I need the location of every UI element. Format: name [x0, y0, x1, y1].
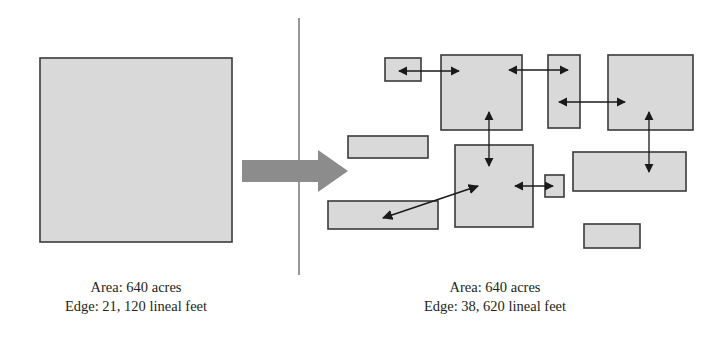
left-caption-area-line: Area: 640 acres [0, 278, 272, 297]
habitat-fragment [548, 55, 580, 128]
habitat-fragment [608, 55, 693, 130]
transformation-arrow-icon [242, 150, 348, 192]
habitat-fragments-group [328, 55, 693, 248]
intact-habitat-square [40, 58, 232, 242]
left-caption-edge-line: Edge: 21, 120 lineal feet [0, 297, 272, 316]
habitat-fragmentation-figure: Area: 640 acres Edge: 21, 120 lineal fee… [0, 0, 723, 353]
habitat-fragment [584, 224, 640, 248]
right-caption-edge-line: Edge: 38, 620 lineal feet [330, 297, 660, 316]
right-panel-caption: Area: 640 acres Edge: 38, 620 lineal fee… [330, 278, 660, 316]
habitat-fragment [385, 58, 421, 81]
habitat-fragment [348, 136, 428, 158]
habitat-fragment [573, 152, 686, 191]
left-panel-caption: Area: 640 acres Edge: 21, 120 lineal fee… [0, 278, 272, 316]
habitat-fragment [441, 55, 522, 130]
right-caption-area-line: Area: 640 acres [330, 278, 660, 297]
